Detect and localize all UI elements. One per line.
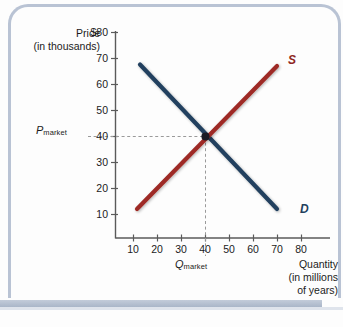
supply-curve-label: S [288, 54, 296, 66]
x-axis-title-line3: of years) [297, 284, 338, 296]
y-tick-label-50: 50 [78, 105, 108, 116]
x-tick-label-40: 40 [193, 244, 217, 255]
axis-lines [116, 31, 331, 239]
q-market-subscript: market [184, 262, 208, 271]
y-tick-label-30: 30 [78, 157, 108, 168]
x-tick-label-20: 20 [145, 244, 169, 255]
p-market-label: Pmarket [36, 124, 67, 139]
y-axis-title-line2: (in thousands) [33, 40, 100, 52]
x-tick-label-50: 50 [217, 244, 241, 255]
y-tick-label-10: 10 [78, 209, 108, 220]
y-axis-ticks [111, 33, 118, 215]
chart-plot-area: Price (in thousands) $80 70 60 50 40 30 … [0, 0, 343, 327]
y-tick-label-70: 70 [78, 53, 108, 64]
p-market-subscript: market [43, 128, 67, 137]
x-axis-title-line1: Quantity [299, 258, 338, 270]
x-tick-label-60: 60 [241, 244, 265, 255]
equilibrium-point-marker [201, 132, 209, 140]
x-tick-label-30: 30 [169, 244, 193, 255]
demand-curve-label: D [300, 203, 309, 215]
y-tick-label-60: 60 [78, 79, 108, 90]
x-tick-label-70: 70 [265, 244, 289, 255]
y-tick-label-20: 20 [78, 183, 108, 194]
x-tick-label-80: 80 [289, 244, 313, 255]
q-market-variable: Q [175, 258, 184, 270]
figure-root: Price (in thousands) $80 70 60 50 40 30 … [0, 0, 343, 327]
x-tick-label-10: 10 [121, 244, 145, 255]
x-axis-title: Quantity (in millions of years) [238, 258, 338, 297]
x-axis-title-line2: (in millions [288, 271, 338, 283]
y-tick-label-40: 40 [78, 131, 108, 142]
q-market-label: Qmarket [175, 258, 207, 273]
y-tick-label-80: $80 [78, 27, 108, 38]
